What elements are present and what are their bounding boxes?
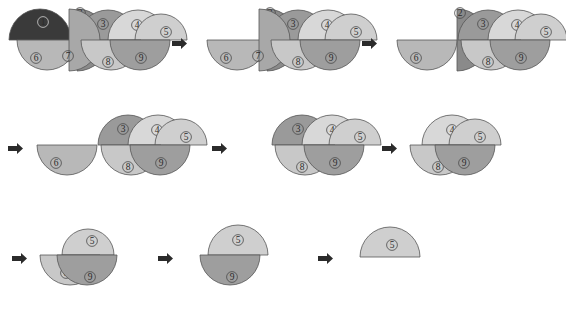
- arrow-icon: [212, 143, 227, 154]
- panel-8: 59: [200, 225, 268, 285]
- figure-canvas: 1234567892345678923456893456893458945895…: [0, 0, 566, 314]
- piece-5: [62, 229, 114, 255]
- piece-1: [9, 9, 71, 40]
- panel-7: 589: [40, 229, 117, 285]
- panel-1: 123456789: [9, 8, 187, 71]
- piece-5: [208, 225, 268, 255]
- piece-6: [207, 40, 267, 70]
- arrow-icon: [158, 253, 173, 264]
- arrow-icon: [318, 253, 333, 264]
- panel-3: 2345689: [397, 8, 566, 71]
- arrow-icon: [8, 143, 23, 154]
- panel-6: 4589: [410, 115, 501, 175]
- arrow-icon: [382, 143, 397, 154]
- panel-5: 34589: [272, 115, 381, 175]
- piece-5: [360, 227, 420, 257]
- panel-4: 345689: [37, 115, 207, 175]
- arrow-icon: [12, 253, 27, 264]
- panel-9: 5: [360, 227, 420, 257]
- piece-6: [37, 145, 97, 175]
- panel-2: 23456789: [207, 8, 377, 71]
- piece-6: [17, 40, 77, 70]
- piece-6: [397, 40, 457, 70]
- piece-9: [200, 255, 260, 285]
- sequence-diagram: 1234567892345678923456893456893458945895…: [0, 0, 566, 314]
